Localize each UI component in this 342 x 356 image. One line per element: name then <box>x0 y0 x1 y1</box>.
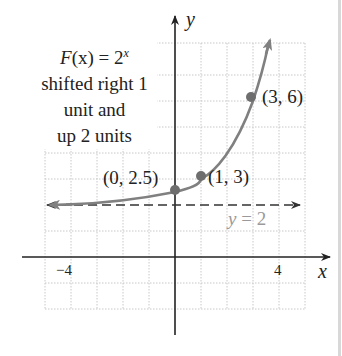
caption-line-1: F(x) = 2x <box>32 40 157 71</box>
graph-figure: F(x) = 2x shifted right 1 unit and up 2 … <box>0 0 342 356</box>
point-3-6 <box>246 92 256 102</box>
caption-line-2: shifted right 1 <box>32 71 157 97</box>
curve-left-arrow <box>50 204 72 205</box>
caption-func-name: F <box>60 47 72 68</box>
caption-line-3: unit and <box>32 97 157 123</box>
y-axis-label: y <box>186 8 195 31</box>
tick-label-4: 4 <box>274 262 282 279</box>
point-label-0-2-5: (0, 2.5) <box>103 167 158 189</box>
point-0-2-5 <box>170 185 180 195</box>
asymptote-label-value: = 2 <box>236 208 266 229</box>
tick-label-neg4: −4 <box>56 262 72 279</box>
point-label-3-6: (3, 6) <box>262 86 303 108</box>
caption-func-expression: (x) = 2 <box>72 47 124 68</box>
function-caption: F(x) = 2x shifted right 1 unit and up 2 … <box>32 40 157 149</box>
page-edge-divider <box>338 0 341 356</box>
asymptote-label: y = 2 <box>228 208 266 230</box>
caption-line-4: up 2 units <box>32 123 157 149</box>
caption-exponent: x <box>124 46 129 60</box>
x-axis-label: x <box>318 260 327 283</box>
point-1-3 <box>196 171 206 181</box>
point-label-1-3: (1, 3) <box>208 166 249 188</box>
